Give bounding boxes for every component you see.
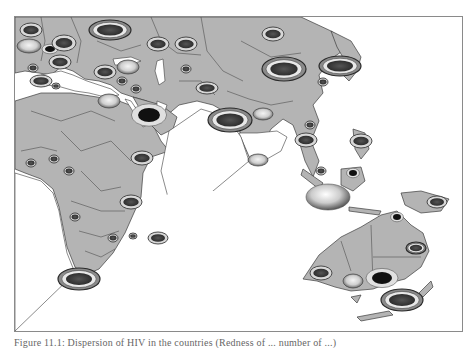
marker-mozambique: [129, 233, 137, 239]
marker-kenya: [120, 195, 142, 209]
marker-thailand: [295, 133, 317, 147]
marker-saudi: [131, 104, 166, 126]
marker-indonesia: [306, 184, 350, 210]
marker-india: [208, 108, 252, 132]
marker-egypt: [98, 94, 120, 108]
marker-turkey: [117, 60, 139, 74]
marker-vietnam: [305, 121, 315, 129]
marker-bangladesh: [253, 108, 273, 120]
marker-greece: [94, 65, 116, 79]
marker-korea: [318, 78, 328, 86]
marker-western-australia: [310, 266, 332, 280]
marker-russia-east: [262, 27, 284, 41]
marker-spain: [28, 64, 38, 72]
marker-south-australia: [343, 274, 363, 288]
figure-caption: Figure 11.1: Dispersion of HIV in the co…: [14, 337, 474, 348]
marker-russia-west: [89, 20, 131, 40]
marker-tunisia: [52, 83, 60, 89]
marker-nigeria: [49, 155, 59, 163]
marker-senegal: [26, 159, 36, 167]
marker-ethiopia: [131, 151, 153, 165]
marker-sri-lanka: [248, 154, 268, 166]
marker-ukraine: [147, 37, 169, 51]
marker-victoria: [366, 268, 398, 287]
marker-zambia: [108, 234, 118, 242]
world-map: [15, 17, 462, 331]
marker-philippines: [350, 134, 372, 148]
marker-angola: [70, 213, 80, 221]
java-land: [349, 207, 381, 215]
marker-china: [262, 57, 306, 81]
map-frame: [14, 16, 463, 332]
marker-madagascar: [148, 232, 168, 244]
marker-new-zealand: [381, 289, 423, 311]
marker-uzbekistan: [181, 65, 191, 73]
marker-queensland: [406, 242, 426, 254]
marker-png: [427, 196, 447, 208]
marker-syria: [117, 77, 127, 85]
tasmania-land: [351, 295, 361, 303]
marker-cameroon: [64, 167, 74, 175]
marker-germany: [52, 35, 76, 51]
marker-afghanistan: [196, 82, 218, 94]
marker-italy: [49, 55, 71, 69]
marker-south-africa: [58, 268, 100, 290]
marker-japan: [319, 56, 361, 76]
marker-uk: [20, 23, 42, 37]
marker-iraq: [131, 85, 141, 93]
marker-kazakhstan: [175, 37, 197, 51]
marker-france: [17, 39, 41, 53]
marker-morocco: [30, 75, 52, 87]
marker-borneo: [347, 168, 360, 178]
marker-australia-north: [391, 212, 404, 222]
marker-malaysia: [316, 167, 326, 175]
